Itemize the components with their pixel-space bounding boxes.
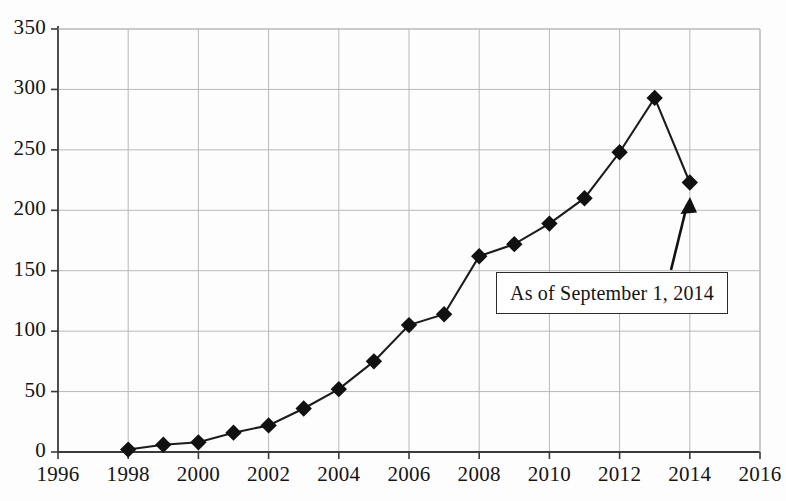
x-axis-tick-label: 2014 (655, 462, 725, 487)
data-point-marker (647, 90, 663, 106)
x-axis-tick-label: 2010 (514, 462, 584, 487)
y-axis-tick-label: 200 (14, 196, 46, 221)
x-axis-tick-label: 2016 (725, 462, 786, 487)
callout-arrow-icon (671, 197, 697, 270)
chart-canvas (0, 0, 786, 501)
y-axis-tick-label: 300 (14, 75, 46, 100)
x-axis-tick-label: 1996 (23, 462, 93, 487)
x-axis-tick-label: 2004 (304, 462, 374, 487)
data-point-marker (541, 215, 557, 231)
vertical-gridlines (128, 29, 760, 452)
data-point-marker (506, 236, 522, 252)
x-axis-tick-label: 1998 (93, 462, 163, 487)
y-axis-tick-label: 100 (14, 317, 46, 342)
x-axis-tick-label: 2002 (234, 462, 304, 487)
data-point-marker (436, 306, 452, 322)
data-point-marker (576, 190, 592, 206)
line-chart: 050100150200250300350 199619982000200220… (0, 0, 786, 501)
annotation-text: As of September 1, 2014 (510, 282, 714, 305)
data-point-marker (190, 434, 206, 450)
data-point-marker (611, 144, 627, 160)
data-point-marker (471, 248, 487, 264)
x-axis-tick-label: 2000 (163, 462, 233, 487)
data-point-marker (260, 417, 276, 433)
annotation-callout-box: As of September 1, 2014 (496, 272, 728, 314)
data-point-marker (225, 424, 241, 440)
y-axis-tick-label: 350 (14, 15, 46, 40)
x-axis-tick-label: 2012 (585, 462, 655, 487)
y-axis-tick-label: 150 (14, 257, 46, 282)
y-axis-tick-label: 50 (24, 378, 46, 403)
y-axis-tick-label: 250 (14, 136, 46, 161)
y-axis-tick-label: 0 (35, 438, 46, 463)
x-axis-tick-label: 2008 (444, 462, 514, 487)
data-point-marker (120, 441, 136, 457)
data-point-marker (682, 174, 698, 190)
data-point-marker (155, 437, 171, 453)
data-point-marker (296, 400, 312, 416)
x-axis-tick-label: 2006 (374, 462, 444, 487)
